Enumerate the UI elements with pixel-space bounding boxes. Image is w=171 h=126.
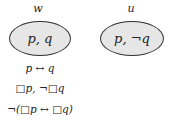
world-w-content: p, q bbox=[28, 31, 53, 46]
formula-negated-box-biconditional: ¬(□p ↔ □q) bbox=[0, 103, 80, 115]
world-u-content: p, ¬q bbox=[114, 31, 150, 46]
world-w-ellipse: p, q bbox=[9, 21, 71, 56]
formula-biconditional: p ↔ q bbox=[0, 62, 80, 74]
world-u-ellipse: p, ¬q bbox=[100, 21, 164, 56]
formula-box-p-not-box-q: □p, ¬□q bbox=[0, 82, 80, 94]
world-w-label: w bbox=[28, 2, 48, 15]
world-u-label: u bbox=[121, 2, 141, 15]
